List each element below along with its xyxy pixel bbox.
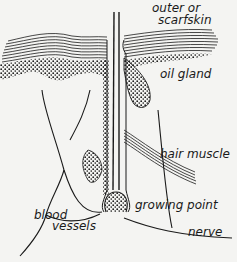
diagram-drawing — [0, 0, 237, 262]
label-scarfskin: scarfskin — [158, 14, 212, 26]
label-vessels: vessels — [52, 220, 96, 232]
hair-shaft — [113, 12, 119, 190]
label-oil-gland: oil gland — [160, 68, 211, 80]
hair-bulb — [105, 192, 128, 212]
label-growing-point: growing point — [135, 199, 218, 211]
nerve — [124, 110, 232, 238]
label-hair-muscle: hair muscle — [160, 148, 230, 160]
germinal-layer-left — [0, 57, 107, 80]
outer-skin-right — [124, 29, 218, 57]
follicle-sheath-left — [103, 60, 109, 195]
label-nerve: nerve — [188, 226, 222, 238]
oil-gland-lower — [83, 150, 102, 182]
hair-follicle-diagram: outer or scarfskin oil gland hair muscle… — [0, 0, 237, 262]
